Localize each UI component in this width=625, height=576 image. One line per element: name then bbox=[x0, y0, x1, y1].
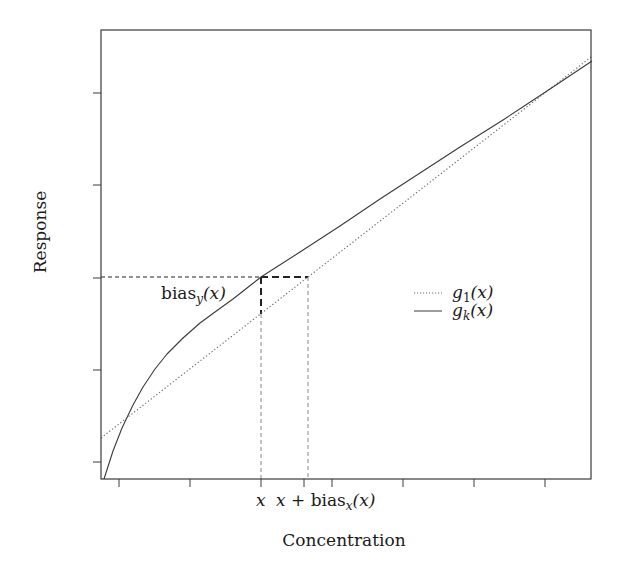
x-axis-title: Concentration bbox=[282, 530, 405, 550]
y-axis-title: Response bbox=[30, 191, 50, 273]
series-gk-curve bbox=[104, 61, 592, 479]
series-g1-line bbox=[101, 57, 591, 438]
bias-y-label: biasy(x) bbox=[161, 283, 226, 306]
x-axis-ticks bbox=[119, 479, 545, 487]
calibration-chart: biasy(x) x x + biasx(x) Concentration Re… bbox=[0, 0, 625, 576]
chart-series bbox=[101, 57, 592, 479]
bias-guide-lines bbox=[101, 277, 308, 479]
x-tick-label-x-plus-bias: x + biasx(x) bbox=[276, 490, 375, 513]
plot-frame bbox=[101, 30, 591, 479]
legend-label-gk: gk(x) bbox=[452, 300, 493, 323]
x-tick-label-x: x bbox=[256, 490, 266, 510]
legend: g1(x) gk(x) bbox=[414, 282, 493, 323]
y-axis-ticks bbox=[93, 93, 101, 462]
